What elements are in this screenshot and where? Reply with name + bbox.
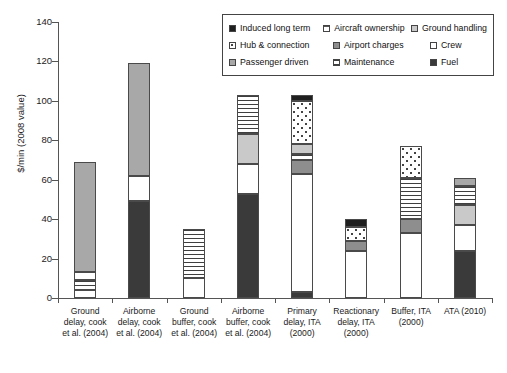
legend-label: Passenger driven <box>240 58 308 67</box>
x-axis-label: Buffer, ITA(2000) <box>381 306 441 328</box>
x-axis-tick <box>112 298 113 303</box>
x-axis-label: Airbornedelay, cooket al. (2004) <box>109 306 169 339</box>
y-axis-tick-label-wrap: 120 <box>16 56 52 66</box>
x-axis-tick <box>58 298 59 303</box>
bar-segment-hub <box>291 101 313 144</box>
bar-segment-ground <box>454 205 476 225</box>
bar-segment-pass <box>128 63 150 175</box>
legend-label: Fuel <box>441 58 458 67</box>
stacked-bar <box>400 146 422 298</box>
x-axis-label-line: Airborne <box>109 306 169 317</box>
legend-label: Ground handling <box>422 24 487 33</box>
legend-swatch-icon <box>411 25 418 32</box>
x-axis-label: Primarydelay, ITA(2000) <box>272 306 332 339</box>
bar-segment-fuel <box>128 201 150 298</box>
bar-segment-crew <box>345 251 367 298</box>
bar-segment-airport <box>291 160 313 174</box>
x-axis-label: ATA (2010) <box>435 306 495 317</box>
x-axis-label: Airbornebuffer, cooket al. (2004) <box>218 306 278 339</box>
legend-item-induced[interactable]: Induced long term <box>229 24 323 33</box>
legend-item-airport[interactable]: Airport charges <box>333 41 430 50</box>
y-axis-tick-label-wrap: 40 <box>16 214 52 224</box>
legend-label: Aircraft ownership <box>334 24 404 33</box>
y-axis-tick <box>52 180 58 181</box>
legend-item-maint[interactable]: Maintenance <box>333 58 430 67</box>
y-axis-tick-label-wrap: 20 <box>16 254 52 264</box>
legend-swatch-icon <box>229 42 236 49</box>
x-axis-label-line: delay, cook <box>55 317 115 328</box>
bar-segment-maint <box>237 95 259 134</box>
y-axis-tick-label: 100 <box>24 96 52 106</box>
legend-item-aircraft[interactable]: Aircraft ownership <box>323 24 411 33</box>
y-axis-tick-label-wrap: 100 <box>16 96 52 106</box>
y-axis-tick-label: 0 <box>24 293 52 303</box>
x-axis-label-line: Primary <box>272 306 332 317</box>
bar-segment-airport <box>345 241 367 251</box>
legend-swatch-icon <box>430 59 437 66</box>
x-axis-label-line: Ground <box>55 306 115 317</box>
bar-segment-maint <box>400 178 422 219</box>
y-axis-tick <box>52 259 58 260</box>
bar-segment-ground <box>237 134 259 164</box>
x-axis-label-line: delay, cook <box>109 317 169 328</box>
bar-segment-induced <box>291 95 313 101</box>
legend-swatch-icon <box>323 25 330 32</box>
x-axis-tick <box>329 298 330 303</box>
bar-segment-crew <box>400 233 422 298</box>
bar-segment-crew <box>237 164 259 194</box>
y-axis-tick-label: 40 <box>24 214 52 224</box>
stacked-bar <box>128 63 150 298</box>
x-axis-label-line: Buffer, ITA <box>381 306 441 317</box>
legend-item-ground[interactable]: Ground handling <box>411 24 487 33</box>
bar-segment-fuel <box>454 251 476 298</box>
chart-canvas: $/min (2008 value) 020406080100120140 Gr… <box>0 0 507 373</box>
x-axis-tick <box>275 298 276 303</box>
x-axis-label-line: (2000) <box>272 328 332 339</box>
legend-item-pass[interactable]: Passenger driven <box>229 58 333 67</box>
legend-swatch-icon <box>229 25 236 32</box>
y-axis-tick <box>52 61 58 62</box>
x-axis-label-line: buffer, cook <box>218 317 278 328</box>
stacked-bar <box>74 162 96 298</box>
legend-item-hub[interactable]: Hub & connection <box>229 41 333 50</box>
x-axis-tick <box>167 298 168 303</box>
stacked-bar <box>454 178 476 298</box>
x-axis-label-line: delay, ITA <box>326 317 386 328</box>
bar-segment-fuel <box>237 194 259 298</box>
bar-segment-induced <box>345 219 367 227</box>
x-axis-label: Grounddelay, cooket al. (2004) <box>55 306 115 339</box>
y-axis-tick-label-wrap: 0 <box>16 293 52 303</box>
y-axis-tick-label: 80 <box>24 135 52 145</box>
x-axis-tick <box>438 298 439 303</box>
legend-swatch-icon <box>229 59 236 66</box>
y-axis-tick <box>52 101 58 102</box>
legend-item-fuel[interactable]: Fuel <box>430 58 458 67</box>
legend-swatch-icon <box>333 59 340 66</box>
bar-segment-pass <box>74 162 96 272</box>
x-axis-label-line: delay, ITA <box>272 317 332 328</box>
stacked-bar <box>237 95 259 298</box>
bar-segment-pass <box>454 178 476 186</box>
stacked-bar <box>183 229 205 298</box>
bar-segment-maint <box>183 229 205 278</box>
legend-label: Hub & connection <box>240 41 309 50</box>
x-axis-label-line: et al. (2004) <box>218 328 278 339</box>
bar-segment-crew <box>291 174 313 292</box>
x-axis-label-line: et al. (2004) <box>109 328 169 339</box>
bar-segment-crew <box>74 290 96 298</box>
y-axis-tick-label: 60 <box>24 175 52 185</box>
y-axis-tick <box>52 22 58 23</box>
y-axis-tick-label-wrap: 60 <box>16 175 52 185</box>
x-axis-label: Reactionarydelay, ITA(2000) <box>326 306 386 339</box>
y-axis-line <box>58 22 59 299</box>
bar-segment-fuel <box>291 292 313 298</box>
x-axis-tick <box>221 298 222 303</box>
legend-row: Passenger drivenMaintenanceFuel <box>229 54 487 71</box>
stacked-bar <box>291 95 313 298</box>
legend-item-crew[interactable]: Crew <box>430 41 462 50</box>
x-axis-label-line: et al. (2004) <box>55 328 115 339</box>
legend-label: Induced long term <box>240 24 310 33</box>
x-axis-label: Groundbuffer, cooket al. (2004) <box>164 306 224 339</box>
legend-swatch-icon <box>430 42 437 49</box>
x-axis-label-line: Airborne <box>218 306 278 317</box>
